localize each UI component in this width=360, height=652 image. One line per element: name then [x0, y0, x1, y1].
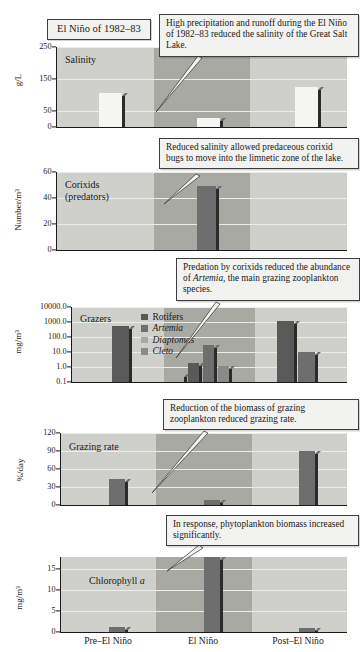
plot-label-salinity: Salinity: [65, 54, 96, 66]
bar-grazers-post-rotifers: [277, 321, 297, 382]
y-tick: 10: [47, 586, 60, 594]
callout-leader-grazing-rate: [148, 431, 210, 497]
bar-grazing-rate-pre: [109, 479, 128, 505]
plot-label-grazers: Grazers: [80, 313, 111, 325]
axis-label-grazing-rate: %/day: [15, 447, 25, 493]
bar-chlorophyll-elnino: [204, 557, 223, 632]
y-tick: 250: [39, 43, 56, 51]
callout-grazers-italic: Artemia: [193, 273, 223, 283]
y-tick: 10.0: [52, 348, 71, 356]
panel-chlorophyll: mg/m³ Chloro: [0, 507, 359, 652]
y-tick: 150: [39, 75, 56, 83]
legend-swatch-cleto: [141, 348, 148, 355]
plot-label-corixids: Corixids (predators): [65, 179, 109, 202]
bar-salinity-elnino: [197, 118, 223, 127]
bar-grazing-rate-post: [299, 451, 318, 505]
band-post-el-nino: [250, 172, 347, 250]
bar-chlorophyll-pre: [109, 627, 128, 632]
callout-grazing-rate: Reduction of the biomass of grazing zoop…: [163, 399, 359, 430]
axis-label-grazers: mg/m³: [13, 314, 23, 370]
x-label-post-el-nino: Post–El Niño: [272, 635, 323, 646]
callout-leader-salinity: [150, 56, 210, 116]
y-tick: 1.0: [56, 363, 71, 371]
bar-grazers-pre-rotifers: [112, 326, 132, 382]
bar-grazing-rate-elnino: [204, 500, 223, 506]
y-tick: 5: [51, 607, 60, 615]
bar-grazers-elnino-rotifers: [188, 363, 202, 382]
legend-swatch-artemia: [141, 325, 148, 332]
legend-swatch-rotifers: [141, 314, 148, 321]
x-label-el-nino: El Niño: [188, 635, 218, 646]
plot-label-chlorophyll: Chlorophyll a: [69, 563, 145, 598]
callout-leader-chlorophyll: [165, 545, 205, 575]
bar-chlorophyll-post: [299, 628, 318, 633]
legend-label-cleto: Cleto: [153, 346, 174, 356]
y-tick: 1000.0: [44, 318, 71, 326]
plot-label-chlorophyll-text: Chlorophyll: [89, 575, 140, 586]
axis-label-salinity: g/L: [13, 60, 23, 100]
y-tick: 100.0: [48, 333, 71, 341]
y-tick: 10000.0: [40, 303, 71, 311]
plot-label-chlorophyll-italic: a: [140, 575, 145, 586]
y-tick: 50: [43, 107, 56, 115]
y-tick: 60: [47, 465, 60, 473]
y-tick: 20: [43, 220, 56, 228]
x-axis-labels: Pre–El Niño El Niño Post–El Niño: [0, 635, 359, 649]
panel-corixids: Number/m³ Corixids (predators) 60 40 20 …: [0, 130, 359, 252]
y-tick: 60: [43, 168, 56, 176]
callout-grazers: Predation by corixids reduced the abunda…: [176, 258, 360, 301]
panel-grazers: mg/m³: [0, 252, 359, 385]
y-tick: 40: [43, 194, 56, 202]
y-tick: 90: [47, 447, 60, 455]
bar-grazers-elnino-cleto: [218, 366, 232, 382]
y-tick: 15: [47, 565, 60, 573]
bar-grazers-elnino-diaptomas: [173, 374, 187, 382]
x-label-pre-el-nino: Pre–El Niño: [84, 635, 132, 646]
panel-salinity: g/L Salinity 2: [0, 0, 359, 130]
axis-label-chlorophyll: mg/m³: [14, 572, 24, 624]
callout-leader-corixids: [162, 174, 202, 208]
callout-corixids: Reduced salinity allowed predaceous cori…: [159, 138, 359, 169]
plot-label-grazing-rate: Grazing rate: [69, 441, 119, 453]
bar-grazers-post-artemia: [298, 352, 318, 382]
callout-leader-grazers: [172, 302, 222, 362]
panel-grazing-rate: %/day Grazin: [0, 385, 359, 507]
bar-salinity-post: [295, 87, 321, 127]
y-tick: 30: [47, 483, 60, 491]
legend-swatch-diaptomas: [141, 337, 148, 344]
y-tick: 120: [43, 429, 60, 437]
callout-salinity: High precipitation and runoff during the…: [159, 14, 359, 57]
bar-salinity-pre: [99, 93, 125, 127]
gridline: [57, 172, 347, 173]
axis-label-corixids: Number/m³: [13, 179, 23, 241]
callout-chlorophyll: In response, phytoplankton biomass incre…: [166, 515, 359, 546]
